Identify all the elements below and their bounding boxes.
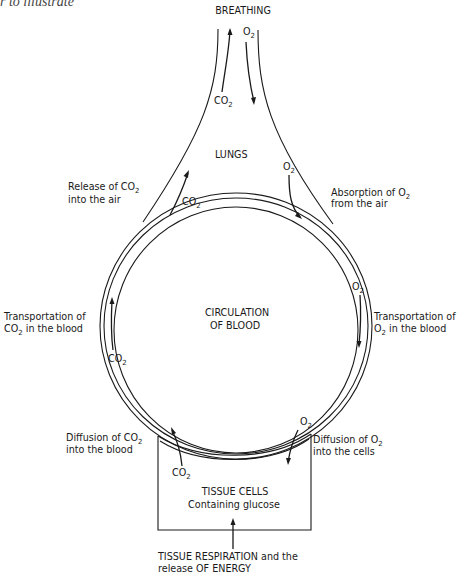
lungs-label: LUNGS [215, 149, 248, 160]
diffusion-o2-label-line2: into the cells [313, 446, 375, 457]
release-co2-label-line1: Release of CO2 [68, 181, 140, 195]
co2-label-tissue: CO2 [172, 467, 191, 481]
tissue-box-top-curve-outer [158, 434, 311, 455]
absorption-o2-label-line2: from the air [331, 198, 388, 209]
circulation-label-line2: OF BLOOD [210, 320, 260, 331]
tissue-cells-subtitle: Containing glucose [188, 499, 280, 510]
arrowhead-icon [231, 518, 236, 525]
transport-o2-label-line2: O2 in the blood [374, 323, 446, 337]
tissue-respiration-label-line2: release OF ENERGY [158, 563, 251, 574]
arrowhead-icon [184, 170, 190, 178]
co2-release-arrow [170, 173, 188, 215]
arrowhead-icon [295, 212, 302, 219]
breathing-title: BREATHING [215, 5, 271, 16]
arrowhead-icon [228, 28, 233, 35]
airway-right-wall [258, 30, 333, 224]
o2-label-airway: O2 [243, 26, 255, 40]
arrowhead-icon [110, 297, 115, 304]
arrowhead-icon [171, 427, 176, 435]
o2-inhale-arrow [246, 42, 254, 102]
transport-co2-label-line1: Transportation of [3, 311, 86, 322]
o2-label-blood: O2 [352, 281, 364, 295]
diffusion-co2-label-line2: into the blood [66, 444, 133, 455]
o2-label-tissue: O2 [300, 416, 312, 430]
arrowhead-icon [251, 97, 256, 105]
transport-o2-label-line1: Transportation of [373, 311, 456, 322]
circulation-label-line1: CIRCULATION [205, 307, 269, 318]
tissue-respiration-label-line1: TISSUE RESPIRATION and the [157, 551, 298, 562]
co2-transport-arrow [111, 300, 113, 350]
o2-transport-arrow [359, 295, 361, 345]
release-co2-label-line2: into the air [68, 194, 121, 205]
co2-exhale-arrow [222, 30, 230, 92]
co2-label-airway: CO2 [214, 95, 233, 109]
transport-co2-label-line2: CO2 in the blood [4, 323, 83, 337]
tissue-cells-title: TISSUE CELLS [201, 486, 269, 497]
arrowhead-icon [286, 458, 291, 465]
respiration-diagram: BREATHING CO2 O2 LUNGS CIRCULATION OF BL… [0, 0, 467, 577]
